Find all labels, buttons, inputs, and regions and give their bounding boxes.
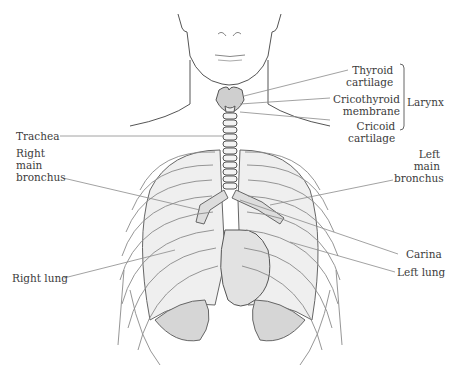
label-cricoid-cartilage: Cricoid cartilage bbox=[348, 120, 395, 144]
trachea bbox=[223, 113, 237, 189]
label-left-main-bronchus: Left main bronchus bbox=[394, 148, 440, 184]
label-cricothyroid-membrane: Cricothyroid membrane bbox=[333, 93, 400, 117]
label-right-lung: Right lung bbox=[12, 272, 68, 284]
label-larynx: Larynx bbox=[407, 96, 444, 108]
label-thyroid-cartilage: Thyroid cartilage bbox=[346, 64, 393, 88]
larynx-bracket bbox=[400, 64, 404, 130]
respiratory-diagram: Thyroid cartilage Cricothyroid membrane … bbox=[0, 0, 457, 377]
label-carina: Carina bbox=[406, 248, 442, 260]
label-right-main-bronchus: Right main bronchus bbox=[16, 147, 66, 183]
label-trachea: Trachea bbox=[16, 130, 59, 142]
anatomy-illustration bbox=[0, 0, 457, 377]
label-left-lung: Left lung bbox=[397, 266, 445, 278]
larynx-shape bbox=[216, 87, 244, 112]
